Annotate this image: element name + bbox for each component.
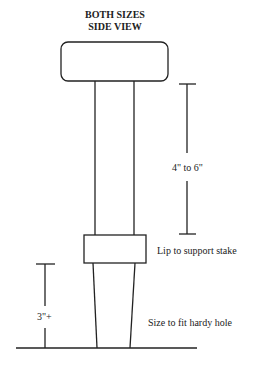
shank-left-edge (93, 263, 97, 348)
shank-dimension-line (36, 264, 55, 348)
shank-fit-label: Size to fit hardy hole (148, 317, 232, 329)
shaft-dimension-line (179, 84, 196, 234)
shank-length-label: 3"+ (37, 311, 52, 323)
stake-head (61, 42, 168, 81)
shaft-length-label: 4" to 6" (172, 162, 203, 174)
stake-lip (84, 235, 146, 263)
shank-right-edge (130, 263, 135, 348)
lip-label: Lip to support stake (157, 245, 237, 257)
